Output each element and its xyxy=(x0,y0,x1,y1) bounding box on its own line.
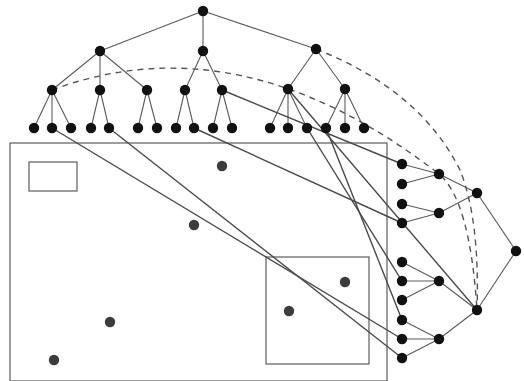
right-tree-node xyxy=(397,276,407,286)
right-tree-node xyxy=(434,334,444,344)
spatial-regions xyxy=(10,143,387,381)
top-tree-node xyxy=(47,85,57,95)
top-tree-node xyxy=(95,46,105,56)
right-tree-node xyxy=(397,315,407,325)
outer-region xyxy=(10,143,387,381)
top-tree-node xyxy=(227,123,237,133)
top-tree-node xyxy=(283,84,293,94)
top-tree-node xyxy=(265,123,275,133)
right-tree-edge xyxy=(439,281,477,310)
data-point xyxy=(217,161,227,171)
top-tree-edge xyxy=(288,49,316,89)
right-tree-node xyxy=(434,169,444,179)
top-tree-edge xyxy=(185,90,194,128)
top-tree-node xyxy=(95,85,105,95)
top-tree-node xyxy=(340,123,350,133)
right-tree-node xyxy=(397,295,407,305)
cross-links xyxy=(52,89,477,358)
cross-link xyxy=(288,89,477,310)
small-region xyxy=(29,162,77,191)
right-tree-node xyxy=(434,208,444,218)
top-tree-node xyxy=(198,6,208,16)
right-tree-node xyxy=(472,188,482,198)
top-tree-node xyxy=(171,123,181,133)
right-tree-node xyxy=(397,159,407,169)
top-tree-edge xyxy=(222,90,232,128)
data-point xyxy=(49,355,59,365)
top-tree-node xyxy=(359,123,369,133)
right-tree-node xyxy=(397,257,407,267)
top-tree-node xyxy=(29,123,39,133)
top-tree-edge xyxy=(91,90,100,128)
right-tree-edge xyxy=(402,204,439,213)
data-point xyxy=(105,317,115,327)
tree-edges xyxy=(34,11,516,358)
top-tree-node xyxy=(180,85,190,95)
top-tree-edge xyxy=(185,51,203,90)
right-tree-node xyxy=(397,199,407,209)
cross-link xyxy=(109,128,402,358)
top-tree-edge xyxy=(100,90,109,128)
top-tree-node xyxy=(104,123,114,133)
diagram-canvas xyxy=(0,0,524,381)
top-tree-node xyxy=(321,123,331,133)
top-tree-edge xyxy=(176,90,185,128)
top-tree-node xyxy=(198,46,208,56)
top-tree-node xyxy=(283,123,293,133)
data-point xyxy=(189,220,199,230)
top-tree-edge xyxy=(147,90,157,128)
right-tree-edge xyxy=(477,193,516,251)
top-tree-node xyxy=(208,123,218,133)
top-tree-node xyxy=(142,85,152,95)
top-tree-node xyxy=(152,123,162,133)
right-tree-edge xyxy=(402,281,439,300)
top-tree-edge xyxy=(52,51,100,90)
right-tree-node xyxy=(511,246,521,256)
right-tree-node xyxy=(434,276,444,286)
top-tree-edge xyxy=(100,11,203,51)
right-tree-edge xyxy=(439,310,477,339)
right-tree-node xyxy=(397,179,407,189)
top-tree-edge xyxy=(270,89,288,128)
top-tree-edge xyxy=(34,90,52,128)
right-tree-node xyxy=(472,305,482,315)
top-tree-edge xyxy=(326,89,345,128)
data-point xyxy=(284,306,294,316)
top-tree-edge xyxy=(100,51,147,90)
top-tree-node xyxy=(189,123,199,133)
cross-link xyxy=(307,128,402,281)
top-tree-node xyxy=(302,123,312,133)
top-tree-node xyxy=(47,123,57,133)
right-tree-edge xyxy=(402,320,439,339)
diagram-svg xyxy=(0,0,524,381)
right-tree-edge xyxy=(402,339,439,358)
dashed-arc xyxy=(52,68,477,310)
top-tree-node xyxy=(86,123,96,133)
right-tree-node xyxy=(397,334,407,344)
right-tree-edge xyxy=(402,174,439,184)
cross-link xyxy=(52,128,402,339)
top-tree-node xyxy=(311,44,321,54)
right-tree-edge xyxy=(402,213,439,223)
top-tree-edge xyxy=(345,89,364,128)
top-tree-edge xyxy=(203,11,316,49)
tree-nodes xyxy=(29,6,521,363)
cross-link xyxy=(326,128,402,320)
top-tree-node xyxy=(217,85,227,95)
right-tree-edge xyxy=(439,174,477,193)
top-tree-node xyxy=(66,123,76,133)
top-tree-edge xyxy=(213,90,222,128)
dashed-arcs xyxy=(52,49,477,310)
top-tree-edge xyxy=(52,90,71,128)
top-tree-edge xyxy=(138,90,147,128)
cross-link xyxy=(194,128,402,223)
right-tree-edge xyxy=(477,251,516,310)
top-tree-node xyxy=(133,123,143,133)
right-tree-node xyxy=(397,353,407,363)
data-points xyxy=(49,161,350,365)
right-tree-node xyxy=(397,218,407,228)
top-tree-node xyxy=(340,84,350,94)
right-tree-edge xyxy=(402,262,439,281)
data-point xyxy=(340,277,350,287)
